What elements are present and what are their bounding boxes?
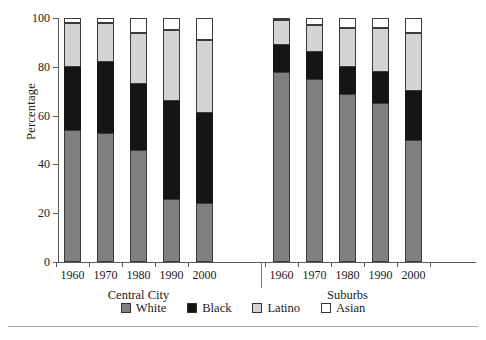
legend-swatch-icon	[187, 303, 197, 313]
x-tick-label: 1980	[336, 268, 360, 283]
y-tick	[53, 67, 58, 68]
bar-segment-latino	[405, 33, 422, 92]
legend-label: Asian	[336, 302, 365, 315]
bar-segment-black	[405, 91, 422, 140]
bar-segment-white	[372, 103, 389, 262]
bar-segment-asian	[130, 18, 147, 33]
x-tick	[331, 262, 332, 267]
group-separator	[261, 262, 262, 288]
x-tick-label: 1970	[303, 268, 327, 283]
legend-item-latino[interactable]: Latino	[252, 302, 300, 315]
bar-segment-latino	[306, 25, 323, 52]
bar-segment-latino	[196, 40, 213, 113]
bar-segment-latino	[130, 33, 147, 84]
legend-swatch-icon	[252, 303, 262, 313]
x-tick	[397, 262, 398, 267]
bar-segment-black	[372, 72, 389, 104]
legend-item-white[interactable]: White	[121, 302, 167, 315]
x-tick-label: 1990	[160, 268, 184, 283]
y-tick-label: 20	[38, 207, 50, 219]
bar-segment-white	[339, 94, 356, 262]
y-tick	[53, 116, 58, 117]
bar-segment-black	[196, 113, 213, 203]
stacked-bar	[196, 18, 213, 262]
stacked-bar	[273, 18, 290, 262]
footer-divider	[8, 326, 478, 327]
bar-segment-latino	[339, 28, 356, 67]
x-tick	[56, 262, 57, 267]
bar-segment-black	[339, 67, 356, 94]
bar-segment-white	[130, 150, 147, 262]
bar-segment-asian	[97, 18, 114, 23]
legend-item-asian[interactable]: Asian	[321, 302, 365, 315]
bar-segment-latino	[273, 20, 290, 44]
y-tick	[53, 164, 58, 165]
bar-segment-white	[306, 79, 323, 262]
legend-label: White	[136, 302, 167, 315]
x-tick	[364, 262, 365, 267]
y-axis-title: Percentage	[24, 37, 39, 187]
y-axis-line	[58, 18, 59, 262]
bar-segment-black	[64, 67, 81, 130]
bar-segment-asian	[339, 18, 356, 28]
x-tick	[89, 262, 90, 267]
x-tick	[265, 262, 266, 267]
plot-area: 020406080100 196019701980199020001960197…	[58, 18, 476, 262]
x-tick	[188, 262, 189, 267]
bar-segment-white	[97, 133, 114, 262]
legend-swatch-icon	[121, 303, 131, 313]
x-tick-label: 1960	[61, 268, 85, 283]
stacked-bar	[130, 18, 147, 262]
bar-segment-asian	[163, 18, 180, 30]
stacked-bar	[306, 18, 323, 262]
bar-segment-asian	[372, 18, 389, 28]
x-axis-line	[58, 262, 476, 263]
bar-segment-black	[97, 62, 114, 133]
x-tick	[430, 262, 431, 267]
x-tick-label: 2000	[402, 268, 426, 283]
bar-segment-black	[273, 45, 290, 72]
y-tick-label: 60	[38, 110, 50, 122]
bar-segment-latino	[97, 23, 114, 62]
legend-label: Latino	[267, 302, 300, 315]
stacked-bar	[405, 18, 422, 262]
bar-segment-asian	[405, 18, 422, 33]
x-tick-label: 1990	[369, 268, 393, 283]
bar-segment-black	[130, 84, 147, 150]
bar-segment-asian	[196, 18, 213, 40]
bar-segment-white	[163, 199, 180, 262]
bar-segment-latino	[372, 28, 389, 72]
bar-segment-white	[273, 72, 290, 262]
bar-segment-latino	[64, 23, 81, 67]
stacked-bar	[163, 18, 180, 262]
y-tick-label: 100	[32, 12, 50, 24]
y-tick	[53, 18, 58, 19]
bar-segment-asian	[306, 18, 323, 25]
stacked-bar	[97, 18, 114, 262]
bar-segment-black	[163, 101, 180, 199]
x-tick-label: 1970	[94, 268, 118, 283]
y-tick-label: 80	[38, 61, 50, 73]
stacked-bar	[64, 18, 81, 262]
stacked-bar	[339, 18, 356, 262]
x-tick	[155, 262, 156, 267]
bar-segment-latino	[163, 30, 180, 101]
stacked-bar	[372, 18, 389, 262]
bar-segment-asian	[64, 18, 81, 23]
y-tick-label: 40	[38, 158, 50, 170]
bar-segment-white	[64, 130, 81, 262]
legend-label: Black	[202, 302, 231, 315]
bar-segment-white	[196, 203, 213, 262]
bar-segment-asian	[273, 18, 290, 20]
legend-swatch-icon	[321, 303, 331, 313]
y-tick-label: 0	[44, 256, 50, 268]
stacked-bar-chart-figure: Percentage 020406080100 1960197019801990…	[0, 0, 486, 340]
chart-legend: WhiteBlackLatinoAsian	[0, 302, 486, 315]
x-tick-label: 2000	[193, 268, 217, 283]
bar-segment-black	[306, 52, 323, 79]
legend-item-black[interactable]: Black	[187, 302, 231, 315]
x-tick-label: 1960	[270, 268, 294, 283]
x-tick	[298, 262, 299, 267]
x-tick	[122, 262, 123, 267]
x-tick-label: 1980	[127, 268, 151, 283]
